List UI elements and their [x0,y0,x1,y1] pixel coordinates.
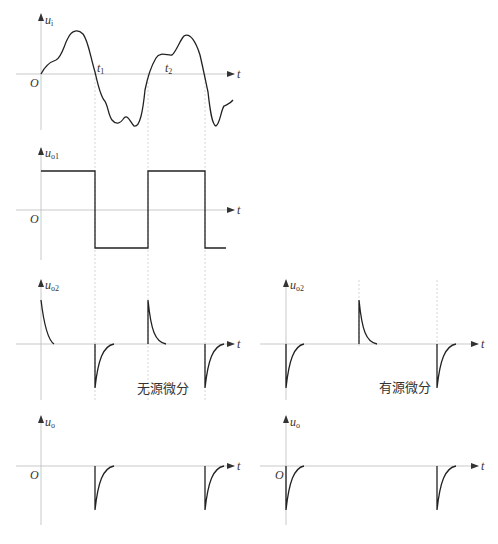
xlabel-t: t [237,338,240,350]
plot-uo2-passive [16,280,234,400]
origin-label: O [30,77,39,89]
plot-uo1 [16,148,234,260]
caption-passive-differentiator: 无源微分 [137,382,189,395]
xlabel-t: t [237,204,240,216]
marker-t1: t1 [97,62,104,76]
plot-ui [16,14,234,130]
origin-label: O [30,213,39,225]
marker-t2: t2 [165,62,172,76]
ylabel-ui: ui [45,14,53,28]
plot-uo2-active [260,280,478,400]
plot-uo-right [260,416,478,525]
xlabel-t: t [481,460,484,472]
ylabel-uo2: uo2 [45,279,59,293]
plot-uo-left [16,416,234,525]
waveform-diagram [0,0,498,544]
ylabel-uo1: uo1 [45,147,59,161]
ylabel-uo: uo [290,416,300,430]
xlabel-t: t [481,338,484,350]
time-guides-right [359,280,437,346]
ylabel-uo2: uo2 [290,279,304,293]
ylabel-uo: uo [45,416,55,430]
time-guides-left [95,74,205,400]
caption-active-differentiator: 有源微分 [379,381,431,394]
origin-label: O [275,469,284,481]
xlabel-t: t [237,460,240,472]
xlabel-t: t [237,68,240,80]
origin-label: O [30,469,39,481]
